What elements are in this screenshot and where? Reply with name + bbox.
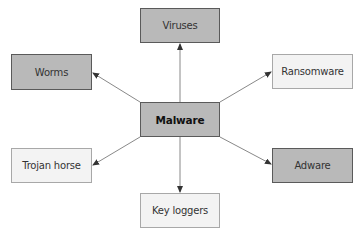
- edge-malware-to-worms: [93, 73, 140, 102]
- edge-malware-to-adware: [220, 137, 271, 164]
- node-label: Key loggers: [152, 205, 208, 216]
- node-malware: Malware: [140, 102, 220, 137]
- node-label: Worms: [35, 67, 68, 78]
- node-viruses: Viruses: [140, 8, 220, 43]
- node-label: Ransomware: [281, 66, 344, 77]
- malware-diagram: Malware Viruses Worms Ransomware Trojan …: [0, 0, 359, 242]
- node-key-loggers: Key loggers: [140, 193, 220, 228]
- edge-malware-to-ransomware: [220, 72, 271, 102]
- node-label: Trojan horse: [22, 160, 81, 171]
- node-worms: Worms: [11, 54, 92, 90]
- node-label: Viruses: [162, 20, 197, 31]
- node-label: Adware: [294, 160, 330, 171]
- node-trojan-horse: Trojan horse: [11, 148, 92, 183]
- node-adware: Adware: [272, 148, 353, 183]
- node-ransomware: Ransomware: [272, 54, 353, 89]
- node-label: Malware: [156, 114, 205, 126]
- edge-malware-to-trojan-horse: [93, 137, 140, 165]
